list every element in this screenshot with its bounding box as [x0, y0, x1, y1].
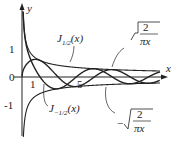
j-half-label: J1/2(x)	[57, 32, 83, 47]
lower-minus-sign: −	[117, 117, 123, 129]
x-tick-1: 1	[30, 78, 36, 90]
x-axis-label: x	[165, 62, 171, 74]
lower-envelope-pointer	[105, 87, 115, 113]
j-minus-half-pointer	[44, 84, 48, 106]
y-tick-0: 0	[9, 71, 15, 83]
upper-envelope-pointer	[112, 48, 124, 67]
y-tick-minus-1: -1	[4, 99, 13, 111]
j-minus-half-label: J−1/2(x)	[49, 102, 80, 117]
upper-numerator: 2	[143, 21, 149, 33]
x-axis-arrow-icon	[161, 75, 168, 80]
bessel-chart: y x 1 0 -1 1 5 J1/2(x) J−1/2(x) 2 πx − 2…	[0, 0, 178, 141]
x-tick-5: 5	[77, 78, 83, 90]
lower-denominator: πx	[134, 122, 145, 134]
y-axis-arrow-icon	[20, 3, 25, 10]
j-half-curve	[22, 59, 160, 86]
upper-denominator: πx	[140, 35, 151, 47]
y-axis-label: y	[26, 2, 32, 14]
j-half-pointer	[70, 46, 74, 62]
lower-numerator: 2	[137, 108, 143, 120]
y-tick-1: 1	[9, 43, 15, 55]
